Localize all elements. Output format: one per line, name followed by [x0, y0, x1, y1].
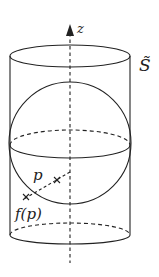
cylinder-sphere-projection-diagram: z S̃ p f(p) [0, 0, 159, 277]
projection-line [24, 172, 70, 199]
z-axis-label: z [76, 21, 84, 36]
point-p-marker [54, 177, 60, 183]
point-fp-label: f(p) [14, 205, 42, 223]
point-fp-marker [23, 194, 29, 200]
z-axis-arrowhead-icon [66, 24, 74, 36]
surface-label: S̃ [139, 55, 151, 75]
point-p-label: p [33, 166, 43, 184]
